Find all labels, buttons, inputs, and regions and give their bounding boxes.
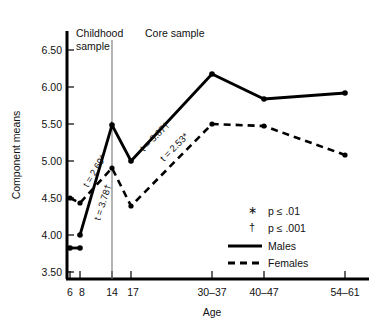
- legend-label-males: Males: [268, 240, 296, 252]
- legend-label-p001: p ≤ .001: [268, 222, 306, 234]
- males-point-17: [128, 158, 134, 164]
- x-tick-label-5: 40–47: [249, 286, 278, 298]
- legend-dagger-icon: †: [249, 221, 255, 233]
- females-point-40-47: [261, 123, 266, 128]
- males-point-40-47: [261, 96, 267, 102]
- x-tick-label-2: 14: [106, 286, 118, 298]
- y-tick-label-4: 4.50: [42, 192, 63, 204]
- y-tick-label-6: 3.50: [42, 266, 63, 278]
- y-axis-title: Component means: [10, 111, 22, 200]
- males-point-54-61: [342, 90, 348, 96]
- males-point-30-37: [209, 71, 215, 77]
- males-point-8: [77, 232, 83, 238]
- x-axis-title: Age: [203, 306, 222, 318]
- x-tick-label-0: 6: [67, 286, 73, 298]
- legend-star-icon: ∗: [248, 204, 257, 216]
- x-tick-label-6: 54–61: [330, 286, 359, 298]
- x-tick-label-4: 30–37: [197, 286, 226, 298]
- y-tick-label-2: 5.50: [42, 118, 63, 130]
- females-point-17: [128, 203, 133, 208]
- females-point-30-37: [209, 121, 214, 126]
- females-point-54-61: [342, 152, 347, 157]
- panel-label-childhood-line1: Childhood: [76, 27, 123, 39]
- males-point-14: [109, 122, 115, 128]
- males-point-8-low: [77, 245, 83, 251]
- females-point-6: [67, 195, 72, 200]
- x-tick-label-3: 17: [127, 286, 139, 298]
- chart-container: 6.50 6.00 5.50 5.00 4.50 4.00 3.50 6 8 1…: [0, 0, 377, 326]
- y-tick-label-0: 6.50: [42, 44, 63, 56]
- panel-label-childhood-line2: sample: [76, 40, 110, 52]
- males-point-6: [67, 245, 73, 251]
- x-tick-label-1: 8: [79, 286, 85, 298]
- y-tick-label-3: 5.00: [42, 155, 63, 167]
- legend-label-p01: p ≤ .01: [268, 205, 300, 217]
- females-point-8: [77, 200, 82, 205]
- y-tick-label-5: 4.00: [42, 229, 63, 241]
- panel-label-core: Core sample: [145, 27, 205, 39]
- line-chart: 6.50 6.00 5.50 5.00 4.50 4.00 3.50 6 8 1…: [0, 0, 377, 326]
- y-tick-label-1: 6.00: [42, 81, 63, 93]
- legend-label-females: Females: [268, 257, 308, 269]
- females-point-14: [109, 165, 114, 170]
